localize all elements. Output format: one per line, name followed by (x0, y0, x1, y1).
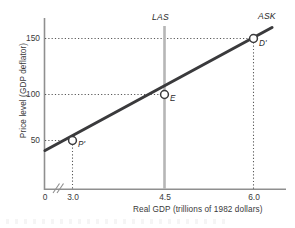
data-point-p (69, 137, 77, 145)
data-point-e (161, 91, 169, 99)
x-tick-label-4-5: 4.5 (150, 192, 180, 202)
x-tick-label-3: 3.0 (58, 192, 88, 202)
data-point-d (250, 35, 258, 43)
y-tick-label-100: 100 (14, 89, 40, 99)
point-label-e: E (170, 94, 175, 103)
x-tick-label-0: 0 (30, 192, 60, 202)
as-las-chart-figure: Price level (GDP deflator) Real GDP (tri… (0, 0, 295, 228)
las-curve-label: LAS (152, 12, 169, 22)
as-curve-line (45, 28, 272, 151)
as-curve-label: ASK (258, 11, 276, 21)
y-tick-label-150: 150 (14, 33, 40, 43)
x-axis-title: Real GDP (trillions of 1982 dollars) (133, 205, 263, 214)
x-tick-label-6: 6.0 (239, 192, 269, 202)
point-label-d: D' (259, 39, 266, 48)
y-tick-label-50: 50 (14, 135, 40, 145)
page-edge-artifact (6, 219, 226, 224)
point-label-p: P' (78, 140, 85, 149)
